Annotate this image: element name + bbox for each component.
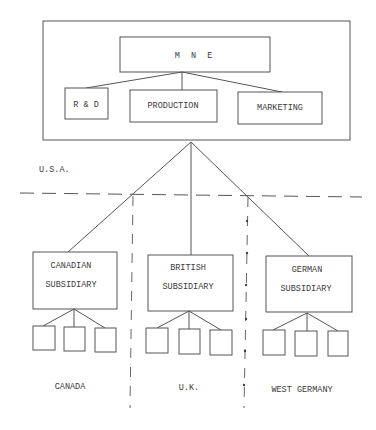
german-unit [295, 331, 317, 356]
canadian-line1: CANADIAN [51, 261, 92, 271]
rd-label: R & D [73, 100, 99, 110]
border-dot [246, 252, 248, 254]
connector-parent-german [191, 142, 309, 256]
border-dot [243, 384, 245, 386]
canadian-unit [95, 328, 116, 352]
border-canada-uk [130, 196, 133, 408]
marketing-label: MARKETING [257, 103, 303, 113]
border-dot [245, 318, 247, 320]
mne-label: M N E [175, 51, 216, 61]
home-country-label: U.S.A. [39, 165, 70, 175]
british-line1: BRITISH [170, 263, 206, 273]
connector-parent-canadian [68, 142, 191, 252]
german-subsidiary: GERMAN SUBSIDIARY [263, 256, 352, 356]
canadian-unit [33, 326, 55, 350]
border-uk-westgermany [244, 197, 248, 408]
british-unit [146, 328, 168, 353]
german-line1: GERMAN [292, 265, 323, 275]
british-unit [210, 330, 232, 355]
country-label-uk: U.K. [179, 383, 199, 393]
canadian-line2: SUBSIDIARY [45, 280, 96, 290]
british-line2: SUBSIDIARY [162, 282, 213, 292]
german-line2: SUBSIDIARY [280, 284, 331, 294]
canadian-unit [64, 327, 85, 351]
mne-org-diagram: M N E R & D PRODUCTION MARKETING U.S.A. … [0, 0, 376, 430]
canadian-subsidiary: CANADIAN SUBSIDIARY [33, 252, 117, 352]
country-label-canada: CANADA [55, 382, 87, 392]
german-unit [263, 330, 285, 355]
production-label: PRODUCTION [147, 101, 198, 111]
border-dot [244, 350, 246, 352]
british-subsidiary: BRITISH SUBSIDIARY [146, 255, 233, 355]
border-dot [246, 220, 248, 222]
border-dot [245, 284, 247, 286]
german-unit [328, 331, 348, 356]
country-label-west-germany: WEST GERMANY [271, 385, 332, 395]
british-unit [179, 329, 200, 354]
